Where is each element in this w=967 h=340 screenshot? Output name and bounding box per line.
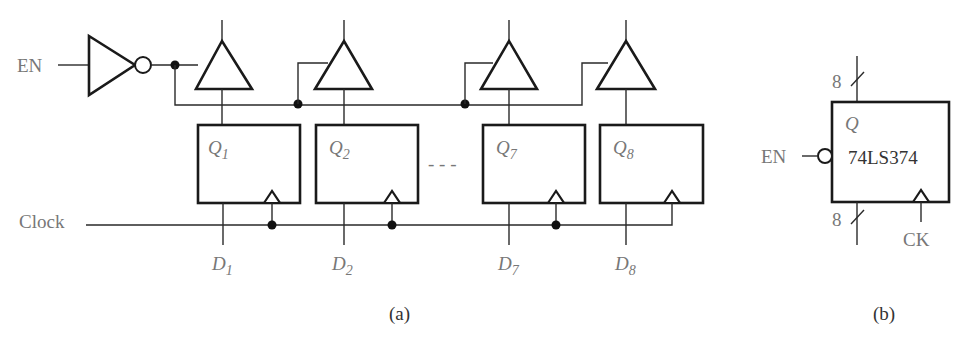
flip-flop-8: Q8 xyxy=(600,125,703,203)
svg-text:74LS374: 74LS374 xyxy=(848,147,918,168)
flip-flop-1: Q1 xyxy=(198,125,300,203)
caption-a: (a) xyxy=(389,303,410,325)
inverted-enable-bubble xyxy=(818,149,832,163)
flip-flop-2: Q2 xyxy=(316,125,418,203)
flip-flop-7: Q7 xyxy=(483,125,585,203)
junction-dot xyxy=(268,221,277,230)
d8-label: D8 xyxy=(614,253,636,278)
clock-wire xyxy=(86,203,672,225)
tristate-buffer-8 xyxy=(597,20,655,125)
register-diagram: EN Q1 Q2 - - - xyxy=(0,0,967,340)
clock-label: Clock xyxy=(19,211,65,232)
d7-label: D7 xyxy=(497,253,520,278)
svg-text:8: 8 xyxy=(832,71,842,92)
chip-74ls374: 8 Q 74LS374 EN CK 8 xyxy=(761,56,949,250)
ellipsis: - - - xyxy=(428,153,456,174)
svg-text:8: 8 xyxy=(832,209,842,230)
d2-label: D2 xyxy=(331,253,353,278)
svg-text:Q: Q xyxy=(845,113,859,134)
tristate-buffer-7 xyxy=(481,20,537,125)
svg-text:EN: EN xyxy=(761,146,787,167)
en-label: EN xyxy=(17,55,43,76)
caption-b: (b) xyxy=(873,303,895,325)
d1-label: D1 xyxy=(211,253,233,278)
svg-text:CK: CK xyxy=(903,229,930,250)
tristate-buffer-1 xyxy=(196,20,252,125)
junction-dot xyxy=(552,221,561,230)
junction-dot xyxy=(388,221,397,230)
tristate-buffer-2 xyxy=(315,20,372,125)
inverter-icon xyxy=(89,36,151,95)
